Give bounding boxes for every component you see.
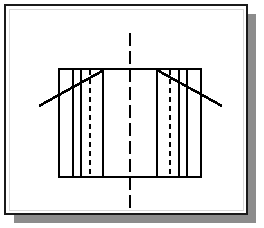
drawing-canvas <box>0 0 264 228</box>
drawing-sheet <box>5 5 247 214</box>
screenshot-root <box>0 0 264 228</box>
